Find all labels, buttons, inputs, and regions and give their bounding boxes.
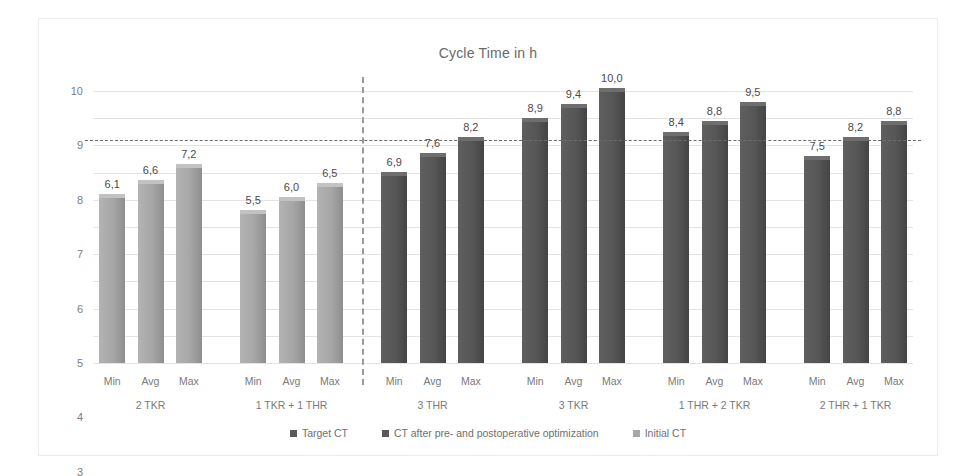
x-axis-tick-label: Max xyxy=(461,375,481,387)
x-axis-tick-label: Min xyxy=(668,375,685,387)
bar-body xyxy=(599,91,625,363)
y-axis-tick-label: 3 xyxy=(77,466,83,476)
gridline: 6 xyxy=(93,200,913,201)
bar-top-face xyxy=(176,164,202,168)
x-axis-tick-label: Avg xyxy=(283,375,301,387)
x-axis-group-label: 3 TKR xyxy=(559,399,589,411)
x-axis-tick-label: Min xyxy=(386,375,403,387)
bar: 5,5 xyxy=(240,213,266,363)
bar-top-face xyxy=(702,121,728,125)
bar: 7,6 xyxy=(420,156,446,363)
bar-value-label: 6,6 xyxy=(143,164,158,176)
bar: 9,4 xyxy=(561,107,587,363)
chart-legend: Target CTCT after pre- and postoperative… xyxy=(39,427,937,439)
bar-body xyxy=(381,175,407,363)
legend-swatch-icon xyxy=(290,430,297,437)
bar: 8,4 xyxy=(663,135,689,363)
gridline: 2 xyxy=(93,309,913,310)
legend-item[interactable]: Initial CT xyxy=(633,427,686,439)
bar-body xyxy=(881,124,907,363)
y-axis-tick-label: 7 xyxy=(77,248,83,260)
legend-item[interactable]: CT after pre- and postoperative optimiza… xyxy=(382,427,599,439)
y-axis-tick-label: 8 xyxy=(77,194,83,206)
section-divider xyxy=(362,77,364,385)
bar: 8,2 xyxy=(843,140,869,363)
bar-top-face xyxy=(881,121,907,125)
x-axis-tick-label: Max xyxy=(602,375,622,387)
bar-value-label: 8,8 xyxy=(886,105,901,117)
x-axis-tick-label: Avg xyxy=(706,375,724,387)
x-axis-tick-label: Max xyxy=(179,375,199,387)
bar: 8,8 xyxy=(702,124,728,363)
y-axis-tick-label: 5 xyxy=(77,357,83,369)
bar-top-face xyxy=(522,118,548,122)
bar-value-label: 7,5 xyxy=(810,140,825,152)
bar-body xyxy=(522,121,548,363)
bar-body xyxy=(804,159,830,363)
bar-body xyxy=(99,197,125,363)
bar: 6,6 xyxy=(138,183,164,363)
x-axis-group-label: 2 THR + 1 TKR xyxy=(820,399,892,411)
bar-top-face xyxy=(317,183,343,187)
gridline: 5 xyxy=(93,227,913,228)
bar-body xyxy=(176,167,202,363)
y-axis-tick-label: 4 xyxy=(77,411,83,423)
y-axis-tick-label: 6 xyxy=(77,303,83,315)
bar: 6,1 xyxy=(99,197,125,363)
bar: 6,5 xyxy=(317,186,343,363)
bar-top-face xyxy=(279,197,305,201)
bar-value-label: 8,9 xyxy=(528,102,543,114)
gridline: 9 xyxy=(93,118,913,119)
bar: 9,5 xyxy=(740,105,766,363)
bar-body xyxy=(458,140,484,363)
gridline: 10 xyxy=(93,91,913,92)
gridline: 3 xyxy=(93,281,913,282)
bar-value-label: 6,9 xyxy=(387,156,402,168)
bar-top-face xyxy=(804,156,830,160)
x-axis-tick-label: Min xyxy=(809,375,826,387)
legend-label: Initial CT xyxy=(645,427,686,439)
bar-top-face xyxy=(138,180,164,184)
x-axis-tick-label: Max xyxy=(743,375,763,387)
reference-line xyxy=(85,140,921,141)
bar-body xyxy=(240,213,266,363)
x-axis-group-label: 3 THR xyxy=(417,399,447,411)
bar-body xyxy=(279,200,305,363)
chart-container: Cycle Time in h 012345678910 6,16,67,25,… xyxy=(38,18,938,456)
bar-body xyxy=(138,183,164,363)
x-axis: MinAvgMax2 TKRMinAvgMax1 TKR + 1 THRMinA… xyxy=(93,363,913,423)
bar-value-label: 9,5 xyxy=(745,86,760,98)
y-axis-tick-label: 10 xyxy=(71,85,83,97)
bar-body xyxy=(843,140,869,363)
x-axis-tick-label: Min xyxy=(527,375,544,387)
bar: 6,9 xyxy=(381,175,407,363)
bar-value-label: 8,2 xyxy=(848,121,863,133)
legend-label: CT after pre- and postoperative optimiza… xyxy=(394,427,599,439)
bar-body xyxy=(702,124,728,363)
bar-value-label: 8,2 xyxy=(463,121,478,133)
bar-value-label: 7,2 xyxy=(181,148,196,160)
legend-swatch-icon xyxy=(633,430,640,437)
bar: 8,2 xyxy=(458,140,484,363)
bar-value-label: 10,0 xyxy=(601,72,622,84)
bar-top-face xyxy=(240,210,266,214)
x-axis-tick-label: Max xyxy=(884,375,904,387)
bar-value-label: 6,5 xyxy=(322,167,337,179)
bar-body xyxy=(663,135,689,363)
x-axis-group-label: 1 THR + 2 TKR xyxy=(679,399,751,411)
bar-value-label: 5,5 xyxy=(246,194,261,206)
gridline: 8 xyxy=(93,145,913,146)
bar-value-label: 8,8 xyxy=(707,105,722,117)
bar-top-face xyxy=(99,194,125,198)
x-axis-group-label: 2 TKR xyxy=(136,399,166,411)
x-axis-group-label: 1 TKR + 1 THR xyxy=(256,399,328,411)
legend-item[interactable]: Target CT xyxy=(290,427,348,439)
plot-area: 012345678910 6,16,67,25,56,06,56,97,68,2… xyxy=(93,91,913,363)
x-axis-tick-label: Min xyxy=(245,375,262,387)
gridline: 4 xyxy=(93,254,913,255)
bar-body xyxy=(740,105,766,363)
bar-body xyxy=(317,186,343,363)
bar: 7,5 xyxy=(804,159,830,363)
y-axis-tick-label: 9 xyxy=(77,139,83,151)
gridline: 7 xyxy=(93,173,913,174)
